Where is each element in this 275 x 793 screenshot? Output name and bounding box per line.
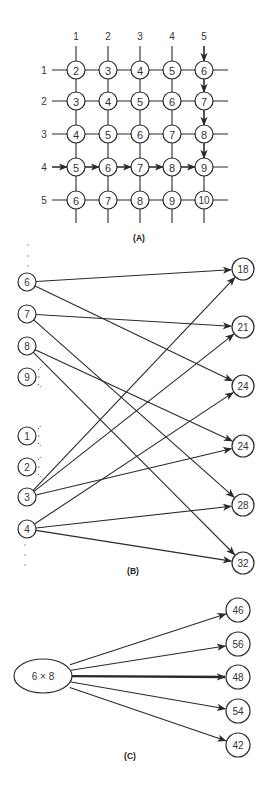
- grid-node-value: 8: [137, 195, 143, 207]
- grid-node-value: 6: [169, 96, 175, 108]
- grid-node-value: 4: [137, 65, 143, 77]
- figure-canvas: 123451234523456345674567856789678910 (A)…: [0, 0, 275, 793]
- grid-node-value: 5: [105, 129, 111, 141]
- operand-node-label: 2: [24, 462, 30, 473]
- operand-node-label: 9: [24, 372, 30, 383]
- operand-node-label: 4: [24, 524, 30, 535]
- candidate-answer-label: 54: [232, 706, 244, 717]
- fan-out-stub: [38, 384, 41, 387]
- grid-node-value: 7: [105, 195, 111, 207]
- grid-node-value: 8: [201, 129, 207, 141]
- candidate-answer-label: 56: [232, 639, 244, 650]
- association-edge: [36, 270, 231, 282]
- panel-c-retrieval-candidates: 6 × 84656485442: [14, 598, 250, 757]
- grid-node-value: 6: [105, 162, 111, 174]
- candidate-answer-label: 42: [232, 740, 244, 751]
- column-label: 1: [73, 31, 79, 42]
- fan-out-stub: [38, 474, 41, 477]
- association-edge: [34, 320, 234, 497]
- column-label: 3: [137, 31, 143, 42]
- row-label: 1: [41, 65, 47, 76]
- problem-label: 6 × 8: [32, 671, 55, 682]
- grid-node-value: 4: [73, 129, 79, 141]
- grid-node-value: 5: [73, 162, 79, 174]
- product-node-label: 32: [237, 558, 249, 569]
- operand-node-label: 3: [24, 492, 30, 503]
- association-edge: [35, 286, 232, 381]
- candidate-answer-label: 46: [232, 605, 244, 616]
- product-node-label: 24: [237, 441, 249, 452]
- panel-a-addition-grid: 123451234523456345674567856789678910: [41, 31, 228, 224]
- grid-node-value: 9: [201, 162, 207, 174]
- grid-node-value: 8: [169, 162, 175, 174]
- grid-node-value: 3: [73, 96, 79, 108]
- retrieval-edge: [71, 646, 225, 670]
- association-edge: [34, 334, 233, 491]
- ellipsis-dot: [24, 564, 26, 566]
- strong-retrieval-edge: [71, 676, 225, 677]
- association-edge: [36, 530, 231, 561]
- association-edge: [33, 352, 234, 554]
- grid-node-value: 5: [169, 65, 175, 77]
- column-label: 4: [169, 31, 175, 42]
- association-edge: [36, 506, 231, 528]
- grid-node-value: 10: [198, 195, 210, 206]
- grid-node-value: 6: [73, 195, 79, 207]
- column-label: 2: [105, 31, 111, 42]
- grid-node-value: 4: [105, 96, 111, 108]
- fan-out-stub: [38, 426, 41, 429]
- grid-node-value: 5: [137, 96, 143, 108]
- row-label: 2: [41, 96, 47, 107]
- caption-b: (B): [127, 566, 139, 576]
- grid-node-value: 6: [137, 129, 143, 141]
- association-edge: [36, 449, 232, 495]
- fan-out-stub: [38, 443, 41, 446]
- grid-node-value: 2: [73, 65, 79, 77]
- association-edge: [35, 350, 232, 441]
- column-label: 5: [201, 31, 207, 42]
- fan-out-stub: [38, 457, 41, 460]
- caption-c: (C): [124, 751, 136, 761]
- ellipsis-dot: [24, 554, 26, 556]
- product-node-label: 21: [237, 322, 249, 333]
- fan-out-stub: [38, 367, 41, 370]
- grid-node-value: 9: [169, 195, 175, 207]
- row-label: 3: [41, 129, 47, 140]
- candidate-answer-label: 48: [232, 672, 244, 683]
- operand-node-label: 8: [24, 341, 30, 352]
- grid-node-value: 7: [137, 162, 143, 174]
- ellipsis-dot: [24, 544, 26, 546]
- panel-b-association-network: 67891234182124242832: [18, 244, 254, 574]
- product-node-label: 18: [237, 264, 249, 275]
- retrieval-edge: [70, 614, 226, 665]
- ellipsis-dot: [27, 265, 29, 267]
- ellipsis-dot: [27, 255, 29, 257]
- operand-node-label: 6: [24, 277, 30, 288]
- association-edge: [36, 315, 231, 327]
- row-label: 5: [41, 195, 47, 206]
- grid-node-value: 3: [105, 65, 111, 77]
- grid-node-value: 6: [201, 65, 207, 77]
- product-node-label: 28: [237, 500, 249, 511]
- grid-node-value: 7: [201, 96, 207, 108]
- grid-node-value: 7: [169, 129, 175, 141]
- caption-a: (A): [133, 233, 145, 243]
- row-label: 4: [41, 162, 47, 173]
- ellipsis-dot: [27, 244, 29, 246]
- product-node-label: 24: [237, 381, 249, 392]
- operand-node-label: 7: [24, 309, 30, 320]
- operand-node-label: 1: [24, 431, 30, 442]
